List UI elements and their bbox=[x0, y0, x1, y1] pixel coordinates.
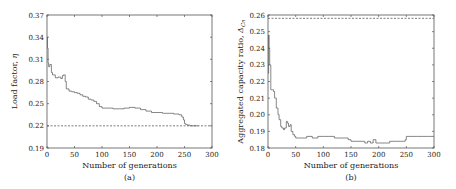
y-axis-label-b-text: Aggregated capacity ratio, bbox=[236, 33, 245, 145]
figure: 0.190.220.250.280.310.340.37 05010015020… bbox=[0, 0, 456, 189]
x-tick-label: 50 bbox=[291, 151, 300, 159]
x-tick-label: 0 bbox=[45, 151, 49, 159]
panel-b-capacity-ratio-chart: 0.180.190.200.210.220.230.240.250.26 050… bbox=[236, 12, 441, 183]
y-tick-label: 0.34 bbox=[28, 34, 44, 42]
y-axis-b: 0.180.190.200.210.220.230.240.250.26 bbox=[249, 12, 434, 153]
plot-frame-b bbox=[268, 15, 434, 148]
x-tick-label: 150 bbox=[123, 151, 136, 159]
series-line-b bbox=[268, 35, 434, 143]
plot-frame-a bbox=[47, 15, 212, 148]
eta-symbol: η bbox=[10, 53, 19, 58]
y-tick-label: 0.19 bbox=[249, 128, 265, 136]
y-tick-label: 0.20 bbox=[249, 111, 265, 119]
y-tick-label: 0.37 bbox=[28, 12, 44, 20]
y-axis-label-a-text: Load factor, bbox=[10, 58, 19, 109]
panel-a-load-factor-chart: 0.190.220.250.280.310.340.37 05010015020… bbox=[10, 12, 219, 183]
y-tick-label: 0.26 bbox=[249, 12, 265, 20]
x-tick-label: 250 bbox=[178, 151, 191, 159]
series-line-a bbox=[47, 37, 198, 126]
caption-b: (b) bbox=[345, 173, 356, 182]
x-tick-label: 200 bbox=[372, 151, 385, 159]
y-axis-label-b: Aggregated capacity ratio, ΔCn bbox=[236, 19, 246, 145]
y-tick-label: 0.28 bbox=[28, 78, 44, 86]
y-tick-label: 0.23 bbox=[249, 61, 265, 69]
y-tick-label: 0.22 bbox=[249, 78, 265, 86]
x-axis-a: 050100150200250300 bbox=[45, 15, 219, 159]
x-axis-label-b: Number of generations bbox=[304, 161, 398, 170]
y-tick-label: 0.21 bbox=[249, 95, 265, 103]
x-tick-label: 300 bbox=[427, 151, 440, 159]
y-tick-label: 0.25 bbox=[249, 28, 265, 36]
x-tick-label: 0 bbox=[266, 151, 270, 159]
cn-subscript: Cn bbox=[240, 19, 246, 27]
y-tick-label: 0.31 bbox=[28, 56, 44, 64]
x-axis-label-a: Number of generations bbox=[82, 161, 176, 170]
x-tick-label: 100 bbox=[95, 151, 108, 159]
y-axis-label-a: Load factor, η bbox=[10, 53, 19, 109]
x-tick-label: 300 bbox=[205, 151, 218, 159]
y-tick-label: 0.18 bbox=[249, 145, 265, 153]
y-axis-a: 0.190.220.250.280.310.340.37 bbox=[28, 12, 212, 153]
caption-a: (a) bbox=[124, 173, 135, 182]
x-tick-label: 100 bbox=[317, 151, 330, 159]
y-tick-label: 0.24 bbox=[249, 45, 265, 53]
delta-symbol: Δ bbox=[236, 27, 245, 34]
x-tick-label: 250 bbox=[400, 151, 413, 159]
y-tick-label: 0.22 bbox=[28, 122, 44, 130]
x-axis-b: 050100150200250300 bbox=[266, 15, 441, 159]
x-tick-label: 50 bbox=[70, 151, 79, 159]
x-tick-label: 150 bbox=[344, 151, 357, 159]
x-tick-label: 200 bbox=[150, 151, 163, 159]
y-tick-label: 0.25 bbox=[28, 100, 44, 108]
y-tick-label: 0.19 bbox=[28, 145, 44, 153]
